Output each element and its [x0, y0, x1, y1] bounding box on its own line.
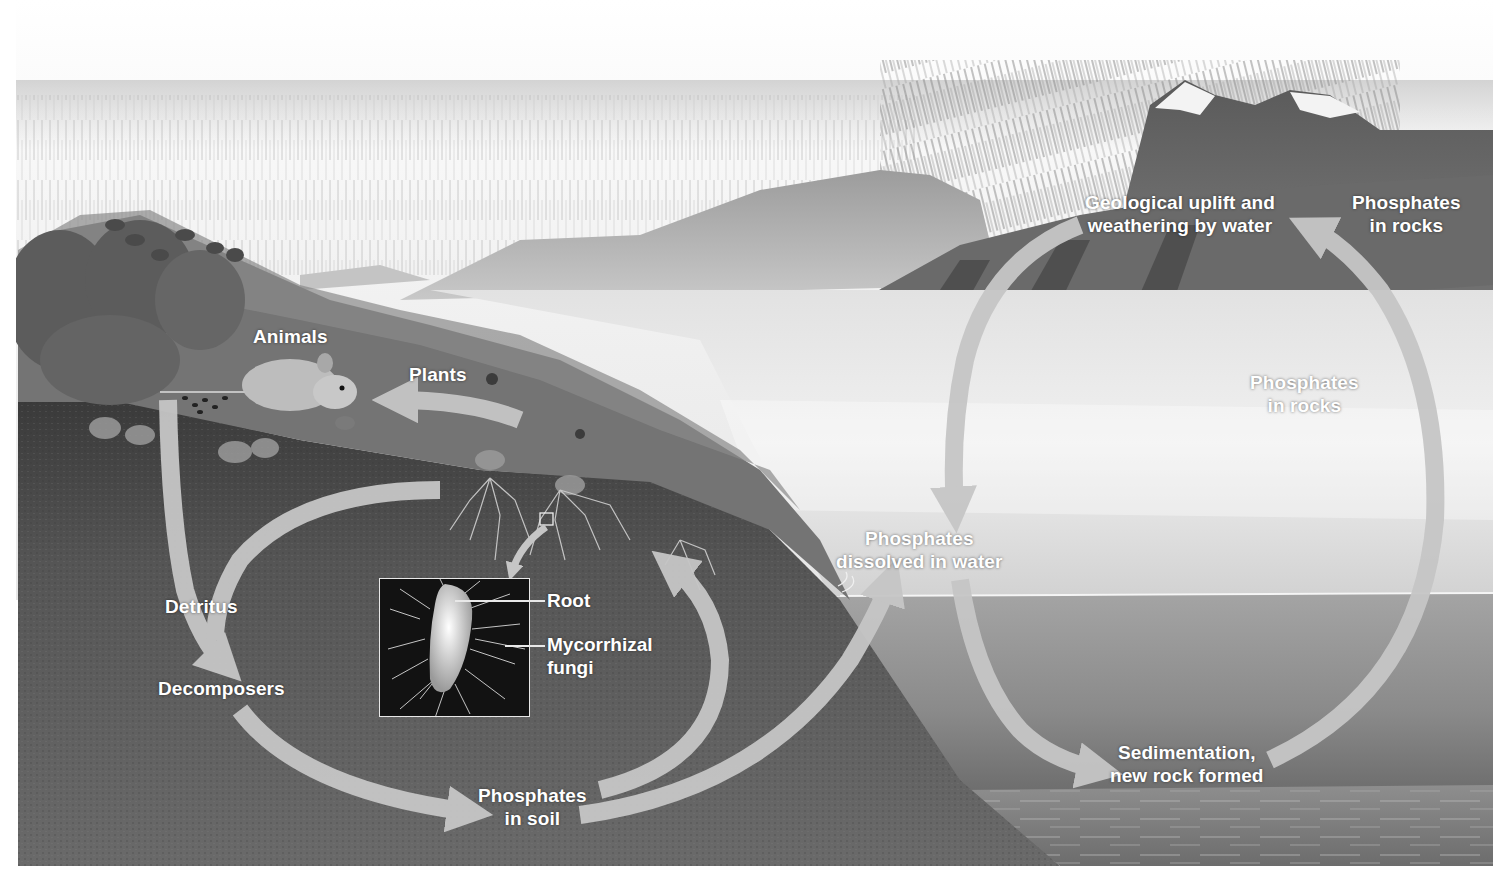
lake-shine — [720, 400, 1493, 520]
label-animals: Animals — [253, 325, 328, 348]
bottom-margin — [0, 866, 1507, 891]
fungi-callout-line — [505, 645, 545, 647]
phosphorus-cycle-illustration — [0, 0, 1507, 891]
root-label: Root — [547, 589, 590, 612]
root-callout-line — [455, 600, 545, 602]
label-phosphates-in-soil: Phosphates in soil — [478, 784, 587, 830]
left-margin — [0, 0, 16, 891]
label-plants: Plants — [409, 363, 467, 386]
root-inset-panel — [379, 578, 530, 717]
label-detritus: Detritus — [165, 595, 238, 618]
mycorrhizal-fungi-label: Mycorrhizal fungi — [547, 633, 653, 679]
label-geological-uplift: Geological uplift and weathering by wate… — [1085, 191, 1275, 237]
right-margin — [1493, 0, 1507, 891]
label-phosphates-in-rocks-top: Phosphates in rocks — [1352, 191, 1461, 237]
label-decomposers: Decomposers — [158, 677, 285, 700]
label-sedimentation: Sedimentation, new rock formed — [1110, 741, 1264, 787]
label-phosphates-in-rocks-mid: Phosphates in rocks — [1250, 371, 1359, 417]
label-phosphates-dissolved: Phosphates dissolved in water — [836, 527, 1003, 573]
